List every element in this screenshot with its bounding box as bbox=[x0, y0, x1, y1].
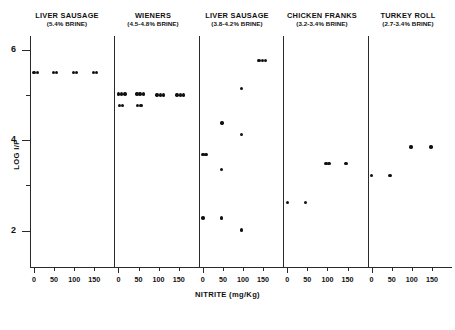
data-point bbox=[388, 174, 391, 177]
x-tick-p4-0 bbox=[287, 267, 288, 273]
y-tick-label-2: 2 bbox=[0, 225, 16, 235]
x-tick-label-p1-50: 50 bbox=[43, 275, 65, 284]
panel-4-brine: (3.2-3.4% BRINE) bbox=[278, 21, 366, 28]
x-tick-label-p2-150: 150 bbox=[168, 275, 190, 284]
panel-divider-1 bbox=[114, 36, 115, 267]
x-axis-line bbox=[30, 267, 452, 268]
data-point bbox=[240, 87, 243, 90]
data-point bbox=[304, 201, 307, 204]
panel-1-brine: (5.4% BRINE) bbox=[24, 21, 110, 28]
panel-title-3: LIVER SAUSAGE (3.8-4.2% BRINE) bbox=[194, 12, 280, 27]
x-tick-label-p2-100: 100 bbox=[148, 275, 170, 284]
x-tick-p1-0 bbox=[34, 267, 35, 273]
x-tick-p2-100 bbox=[159, 267, 160, 271]
panel-title-5: TURKEY ROLL (2.7-3.4% BRINE) bbox=[364, 12, 452, 27]
panel-title-1: LIVER SAUSAGE (5.4% BRINE) bbox=[24, 12, 110, 27]
x-tick-p3-150 bbox=[263, 267, 264, 271]
x-tick-p1-150 bbox=[94, 267, 95, 271]
data-point bbox=[162, 93, 165, 96]
data-point bbox=[201, 216, 204, 219]
data-point bbox=[344, 162, 347, 165]
panel-divider-3 bbox=[283, 36, 284, 267]
data-point bbox=[429, 145, 432, 148]
data-point bbox=[220, 121, 223, 124]
data-point bbox=[75, 71, 78, 74]
data-point bbox=[264, 59, 267, 62]
x-tick-label-p4-150: 150 bbox=[337, 275, 359, 284]
x-tick-label-p4-100: 100 bbox=[316, 275, 338, 284]
data-point bbox=[182, 93, 185, 96]
x-tick-p4-50 bbox=[307, 267, 308, 271]
data-point bbox=[286, 201, 289, 204]
x-tick-p1-50 bbox=[54, 267, 55, 271]
x-tick-label-p4-0: 0 bbox=[276, 275, 298, 284]
x-tick-p5-50 bbox=[392, 267, 393, 271]
x-tick-label-p5-0: 0 bbox=[361, 275, 383, 284]
x-tick-p2-0 bbox=[118, 267, 119, 273]
x-tick-label-p2-0: 0 bbox=[107, 275, 129, 284]
panel-2-brine: (4.5-4.8% BRINE) bbox=[110, 21, 196, 28]
figure-canvas: LIVER SAUSAGE (5.4% BRINE) WIENERS (4.5-… bbox=[0, 0, 455, 330]
panel-divider-4 bbox=[368, 36, 369, 267]
data-point bbox=[55, 71, 58, 74]
x-tick-p5-150 bbox=[432, 267, 433, 271]
y-tick-minor-5 bbox=[26, 95, 31, 96]
data-point bbox=[139, 104, 142, 107]
panel-3-name: LIVER SAUSAGE bbox=[194, 12, 280, 20]
x-tick-label-p1-150: 150 bbox=[83, 275, 105, 284]
y-tick-4 bbox=[22, 140, 31, 141]
data-point bbox=[220, 168, 223, 171]
y-tick-2 bbox=[22, 231, 31, 232]
panel-5-brine: (2.7-3.4% BRINE) bbox=[364, 21, 452, 28]
y-tick-label-6: 6 bbox=[0, 44, 16, 54]
x-tick-p2-50 bbox=[139, 267, 140, 271]
x-tick-label-p3-0: 0 bbox=[192, 275, 214, 284]
x-tick-p4-100 bbox=[327, 267, 328, 271]
data-point bbox=[142, 92, 145, 95]
x-tick-label-p3-50: 50 bbox=[212, 275, 234, 284]
panel-divider-2 bbox=[199, 36, 200, 267]
x-tick-label-p3-100: 100 bbox=[232, 275, 254, 284]
data-point bbox=[409, 145, 412, 148]
x-tick-label-p2-50: 50 bbox=[128, 275, 150, 284]
panel-title-2: WIENERS (4.5-4.8% BRINE) bbox=[110, 12, 196, 27]
x-axis-title: NITRITE (mg/Kg) bbox=[0, 290, 455, 299]
x-tick-p1-100 bbox=[74, 267, 75, 271]
x-tick-p3-0 bbox=[203, 267, 204, 273]
data-point bbox=[204, 153, 207, 156]
x-tick-label-p4-50: 50 bbox=[296, 275, 318, 284]
x-tick-p4-150 bbox=[348, 267, 349, 271]
y-axis-title: LOG I/P bbox=[12, 125, 21, 185]
x-tick-p5-0 bbox=[372, 267, 373, 273]
x-tick-p2-150 bbox=[179, 267, 180, 271]
x-tick-label-p1-0: 0 bbox=[23, 275, 45, 284]
data-point bbox=[95, 71, 98, 74]
data-point bbox=[123, 92, 126, 95]
x-tick-label-p5-150: 150 bbox=[421, 275, 443, 284]
y-tick-6 bbox=[22, 50, 31, 51]
panel-3-brine: (3.8-4.2% BRINE) bbox=[194, 21, 280, 28]
data-point bbox=[240, 228, 243, 231]
x-tick-p3-100 bbox=[243, 267, 244, 271]
data-point bbox=[121, 104, 124, 107]
x-tick-p3-50 bbox=[223, 267, 224, 271]
x-tick-p5-100 bbox=[412, 267, 413, 271]
x-tick-label-p5-50: 50 bbox=[381, 275, 403, 284]
data-point bbox=[327, 162, 330, 165]
panel-2-name: WIENERS bbox=[110, 12, 196, 20]
data-point bbox=[370, 174, 373, 177]
panel-title-4: CHICKEN FRANKS (3.2-3.4% BRINE) bbox=[278, 12, 366, 27]
x-tick-label-p1-100: 100 bbox=[63, 275, 85, 284]
panel-1-name: LIVER SAUSAGE bbox=[24, 12, 110, 20]
panel-4-name: CHICKEN FRANKS bbox=[278, 12, 366, 20]
x-tick-label-p5-100: 100 bbox=[401, 275, 423, 284]
y-axis-line bbox=[30, 36, 31, 267]
data-point bbox=[240, 133, 243, 136]
data-point bbox=[36, 71, 39, 74]
x-tick-label-p3-150: 150 bbox=[252, 275, 274, 284]
panel-5-name: TURKEY ROLL bbox=[364, 12, 452, 20]
data-point bbox=[220, 216, 223, 219]
y-tick-minor-3 bbox=[26, 185, 31, 186]
